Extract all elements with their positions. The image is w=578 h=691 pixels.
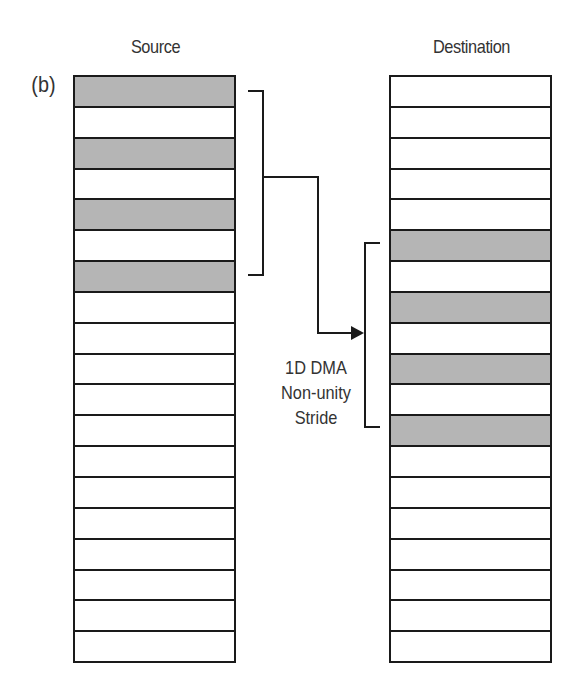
transfer-arrow xyxy=(263,177,352,333)
destination-cell xyxy=(391,478,550,509)
dma-annotation: 1D DMA Non-unity Stride xyxy=(270,355,363,430)
destination-cell xyxy=(391,540,550,571)
destination-cell xyxy=(391,601,550,632)
destination-memory-column xyxy=(389,75,552,663)
destination-cell xyxy=(391,385,550,416)
destination-cell xyxy=(391,139,550,170)
destination-cell xyxy=(391,231,550,262)
source-header: Source xyxy=(85,36,225,58)
destination-cell xyxy=(391,447,550,478)
annotation-line-3: Stride xyxy=(270,405,363,430)
annotation-line-2: Non-unity xyxy=(270,380,363,405)
destination-cell xyxy=(391,632,550,661)
destination-cell xyxy=(391,324,550,355)
destination-cell xyxy=(391,108,550,139)
panel-label: (b) xyxy=(31,72,55,98)
destination-header: Destination xyxy=(401,36,541,58)
source-cell xyxy=(75,139,234,170)
source-cell xyxy=(75,385,234,416)
destination-cell xyxy=(391,293,550,324)
source-cell xyxy=(75,77,234,108)
destination-cell xyxy=(391,200,550,231)
source-cell xyxy=(75,509,234,540)
source-cell xyxy=(75,355,234,386)
annotation-line-1: 1D DMA xyxy=(270,355,363,380)
source-cell xyxy=(75,540,234,571)
source-cell xyxy=(75,231,234,262)
source-cell xyxy=(75,293,234,324)
destination-cell xyxy=(391,170,550,201)
destination-bracket xyxy=(365,243,380,427)
source-cell xyxy=(75,324,234,355)
source-cell xyxy=(75,170,234,201)
source-cell xyxy=(75,478,234,509)
source-cell xyxy=(75,601,234,632)
destination-cell xyxy=(391,571,550,602)
source-cell xyxy=(75,262,234,293)
destination-cell xyxy=(391,416,550,447)
source-cell xyxy=(75,447,234,478)
destination-cell xyxy=(391,77,550,108)
source-memory-column xyxy=(73,75,236,663)
source-bracket xyxy=(248,91,263,275)
source-cell xyxy=(75,571,234,602)
source-cell xyxy=(75,632,234,661)
destination-cell xyxy=(391,355,550,386)
source-cell xyxy=(75,416,234,447)
source-cell xyxy=(75,200,234,231)
destination-cell xyxy=(391,262,550,293)
source-cell xyxy=(75,108,234,139)
arrowhead-icon xyxy=(351,326,364,340)
destination-cell xyxy=(391,509,550,540)
